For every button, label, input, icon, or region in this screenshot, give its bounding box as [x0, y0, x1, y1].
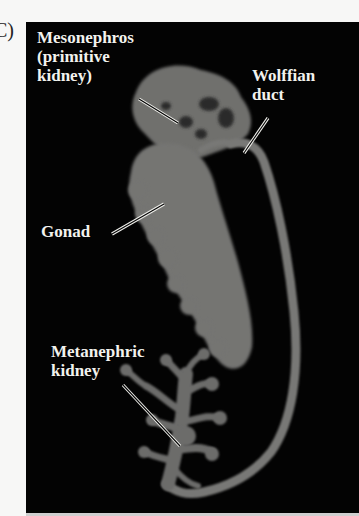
mesonephros-label-line3: kidney)	[37, 66, 134, 85]
gonad-label-line1: Gonad	[41, 222, 90, 241]
wolffian-duct-label-line2: duct	[252, 85, 315, 104]
metanephric-kidney-label: Metanephric kidney	[51, 342, 144, 380]
wolffian-duct-label: Wolffian duct	[252, 66, 315, 104]
micrograph-panel: Mesonephros (primitive kidney) Wolffian …	[26, 22, 359, 513]
metanephric-kidney-label-line2: kidney	[51, 361, 144, 380]
mesonephros-label-line2: (primitive	[37, 47, 134, 66]
mesonephros-label-line1: Mesonephros	[37, 28, 134, 47]
gonad-tissue	[129, 143, 252, 369]
panel-letter: C)	[0, 20, 14, 40]
gonad-label: Gonad	[41, 222, 90, 241]
wolffian-duct-label-line1: Wolffian	[252, 66, 315, 85]
mesonephros-label: Mesonephros (primitive kidney)	[37, 28, 134, 85]
metanephric-kidney-label-line1: Metanephric	[51, 342, 144, 361]
